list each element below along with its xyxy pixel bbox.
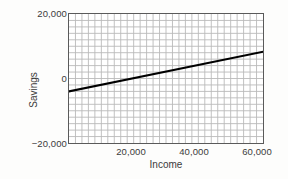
regression-line-series [69, 14, 263, 143]
x-axis-tick-label-40000: 40,000 [179, 146, 209, 157]
y-axis-title: Savings [28, 72, 39, 108]
x-axis-title: Income [68, 159, 264, 170]
y-axis-tick-label-zero: 0 [62, 73, 67, 84]
y-axis-tick-label-bottom: −20,000 [32, 138, 67, 149]
scatter-plot-figure: 20,000 0 −20,000 Savings 20,000 40,000 6… [0, 0, 288, 179]
y-axis-tick-label-top: 20,000 [37, 8, 67, 19]
x-axis-tick-label-20000: 20,000 [116, 146, 146, 157]
x-axis-tick-label-60000: 60,000 [242, 146, 272, 157]
plot-area [68, 13, 264, 144]
